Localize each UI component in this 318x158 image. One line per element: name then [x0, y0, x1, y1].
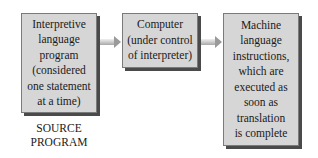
source-program-box: Interpretive language program (considere… [21, 13, 97, 113]
machine-language-box: Machine language instructions, which are… [223, 13, 299, 146]
computer-box: Computer (under control of interpreter) [122, 13, 198, 68]
computer-text: Computer (under control of interpreter) [127, 17, 192, 64]
machine-language-text: Machine language instructions, which are… [233, 18, 290, 142]
arrow-right-icon [201, 38, 222, 46]
source-program-caption: SOURCE PROGRAM [16, 121, 102, 149]
source-program-text: Interpretive language program (considere… [27, 17, 91, 110]
arrow-right-icon [100, 38, 121, 46]
